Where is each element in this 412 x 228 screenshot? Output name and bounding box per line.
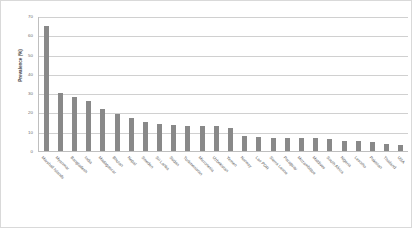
y-tick-label: 30 <box>28 92 33 96</box>
bar-cell <box>238 17 252 151</box>
bar-cell <box>124 17 138 151</box>
bar[interactable] <box>72 97 77 151</box>
x-tick-cell: Lao PDR <box>252 153 266 225</box>
bar-cell <box>67 17 81 151</box>
bar[interactable] <box>327 139 332 151</box>
bar[interactable] <box>44 26 49 151</box>
x-tick-label: India <box>83 155 93 165</box>
x-tick-cell: Sudan <box>166 153 180 225</box>
bar-cell <box>96 17 110 151</box>
bar-cell <box>209 17 223 151</box>
bar[interactable] <box>86 101 91 151</box>
x-tick-cell: Paraguay <box>280 153 294 225</box>
x-tick-cell: Nigeria <box>337 153 351 225</box>
x-tick-cell: Uzbekistan <box>209 153 223 225</box>
y-axis-title: Prevalence (%) <box>18 31 23 101</box>
bar-cell <box>294 17 308 151</box>
bar[interactable] <box>200 126 205 151</box>
x-tick-cell: Sri Lanka <box>152 153 166 225</box>
y-tick-label: 70 <box>28 15 33 19</box>
bar[interactable] <box>228 128 233 151</box>
bar[interactable] <box>129 118 134 151</box>
bar[interactable] <box>157 124 162 151</box>
bar[interactable] <box>384 144 389 151</box>
plot-area <box>38 17 408 152</box>
bar-cell <box>153 17 167 151</box>
bar-cell <box>266 17 280 151</box>
bar-cell <box>365 17 379 151</box>
x-axis-tick-labels: Marshall IslandsMyanmarBangladeshIndiaMa… <box>38 153 408 225</box>
x-tick-cell: Turkmenistan <box>180 153 194 225</box>
y-tick-label: 0 <box>31 150 33 154</box>
x-tick-cell: Bhutan <box>109 153 123 225</box>
bar-cell <box>252 17 266 151</box>
x-tick-cell: Bangladesh <box>66 153 80 225</box>
x-tick-cell: Mozambique <box>294 153 308 225</box>
bar[interactable] <box>299 138 304 152</box>
x-tick-cell: Madagascar <box>95 153 109 225</box>
bar-cell <box>82 17 96 151</box>
x-tick-cell: Lesotho <box>351 153 365 225</box>
x-tick-cell: Myanmar <box>52 153 66 225</box>
y-tick-label: 10 <box>28 131 33 135</box>
bar-cell <box>53 17 67 151</box>
x-tick-cell: Maldives <box>308 153 322 225</box>
y-tick-label: 40 <box>28 73 33 77</box>
bar-cell <box>110 17 124 151</box>
x-tick-cell: Pakistan <box>365 153 379 225</box>
x-tick-cell: Nepal <box>123 153 137 225</box>
bar[interactable] <box>342 141 347 151</box>
y-tick-label: 20 <box>28 111 33 115</box>
bar-series <box>39 17 408 151</box>
bar[interactable] <box>100 109 105 151</box>
bar-cell <box>280 17 294 151</box>
bar-cell <box>223 17 237 151</box>
bar[interactable] <box>398 145 403 151</box>
x-tick-cell: Sierra Leone <box>266 153 280 225</box>
x-tick-label: USA <box>396 155 406 165</box>
x-tick-cell: USA <box>394 153 408 225</box>
bar-cell <box>309 17 323 151</box>
bar[interactable] <box>356 141 361 151</box>
y-tick-label: 50 <box>28 53 33 57</box>
bar[interactable] <box>370 142 375 151</box>
y-tick-label: 60 <box>28 34 33 38</box>
bar-cell <box>181 17 195 151</box>
bar[interactable] <box>285 138 290 152</box>
x-tick-cell: Yemen <box>223 153 237 225</box>
bar-cell <box>195 17 209 151</box>
x-tick-cell: Thailand <box>380 153 394 225</box>
bar-cell <box>394 17 408 151</box>
x-tick-cell: Micronesia <box>195 153 209 225</box>
bar-cell <box>380 17 394 151</box>
x-tick-cell: India <box>81 153 95 225</box>
chart-container: 010203040506070 Prevalence (%) Marshall … <box>0 0 412 228</box>
x-tick-cell: Norway <box>237 153 251 225</box>
bar[interactable] <box>115 114 120 151</box>
bar[interactable] <box>313 138 318 152</box>
bar-cell <box>39 17 53 151</box>
bar-cell <box>337 17 351 151</box>
x-tick-label: Nepal <box>126 155 137 166</box>
bar-cell <box>138 17 152 151</box>
bar[interactable] <box>214 126 219 151</box>
bar-cell <box>167 17 181 151</box>
bar[interactable] <box>256 137 261 151</box>
bar[interactable] <box>271 138 276 152</box>
bar-cell <box>323 17 337 151</box>
bar[interactable] <box>58 93 63 151</box>
bar[interactable] <box>171 125 176 151</box>
bar-cell <box>351 17 365 151</box>
x-tick-cell: Marshall Islands <box>38 153 52 225</box>
bar[interactable] <box>185 126 190 151</box>
x-tick-cell: South Africa <box>323 153 337 225</box>
x-tick-label: Sudan <box>169 155 181 167</box>
bar[interactable] <box>143 122 148 151</box>
bar[interactable] <box>242 136 247 151</box>
x-tick-cell: Sweden <box>138 153 152 225</box>
